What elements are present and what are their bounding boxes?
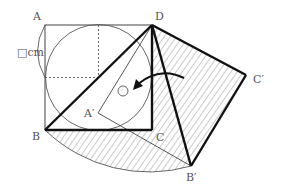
label-side-length: □cm [17, 46, 45, 59]
label-d: D [155, 10, 164, 23]
label-b: B [32, 130, 40, 143]
label-c: C [156, 131, 164, 144]
rotation-diagram: A D B C A′ B′ C′ □cm [0, 0, 284, 194]
label-c-prime: C′ [253, 73, 264, 86]
hatched-region [45, 25, 246, 172]
angle-marker-circle [118, 86, 128, 96]
label-a: A [32, 10, 42, 23]
label-a-prime: A′ [83, 107, 95, 120]
label-b-prime: B′ [186, 171, 197, 184]
